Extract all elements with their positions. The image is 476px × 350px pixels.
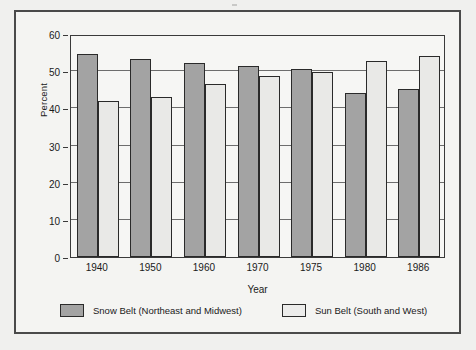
chart-legend: Snow Belt (Northeast and Midwest) Sun Be… bbox=[60, 304, 450, 317]
y-tick-label-50: 50 bbox=[49, 67, 60, 78]
x-axis: 1940195019601970197519801986 bbox=[70, 262, 445, 280]
x-tick-label-1975: 1975 bbox=[300, 262, 322, 273]
bar-sun-belt-1940 bbox=[98, 101, 119, 257]
figure-card: 0102030405060 Percent 194019501960197019… bbox=[14, 10, 461, 334]
y-tick-label-10: 10 bbox=[49, 215, 60, 226]
legend-entry-snow-belt: Snow Belt (Northeast and Midwest) bbox=[60, 304, 242, 317]
bars-layer bbox=[71, 36, 444, 257]
bar-sun-belt-1980 bbox=[366, 61, 387, 257]
y-tick-mark-40 bbox=[63, 109, 68, 110]
x-tick-label-1940: 1940 bbox=[86, 262, 108, 273]
sun-belt-swatch-icon bbox=[282, 304, 306, 317]
scan-artifact bbox=[232, 4, 237, 6]
y-tick-label-0: 0 bbox=[54, 253, 60, 264]
bar-snow-belt-1940 bbox=[77, 54, 98, 257]
bar-sun-belt-1986 bbox=[419, 56, 440, 257]
y-tick-mark-10 bbox=[63, 221, 68, 222]
y-tick-mark-60 bbox=[63, 35, 68, 36]
x-tick-label-1970: 1970 bbox=[246, 262, 268, 273]
bar-snow-belt-1950 bbox=[130, 59, 151, 257]
y-tick-label-60: 60 bbox=[49, 30, 60, 41]
bar-sun-belt-1950 bbox=[151, 97, 172, 257]
y-axis-title: Percent bbox=[38, 83, 49, 117]
legend-label-sun-belt: Sun Belt (South and West) bbox=[315, 305, 427, 316]
snow-belt-swatch-icon bbox=[60, 304, 84, 317]
x-tick-label-1980: 1980 bbox=[354, 262, 376, 273]
y-tick-mark-0 bbox=[63, 258, 68, 259]
x-axis-title: Year bbox=[70, 284, 445, 295]
x-tick-label-1950: 1950 bbox=[139, 262, 161, 273]
legend-label-snow-belt: Snow Belt (Northeast and Midwest) bbox=[93, 305, 242, 316]
y-tick-label-20: 20 bbox=[49, 178, 60, 189]
bar-snow-belt-1970 bbox=[238, 66, 259, 257]
bar-sun-belt-1960 bbox=[205, 84, 226, 257]
y-tick-mark-30 bbox=[63, 147, 68, 148]
bar-sun-belt-1975 bbox=[312, 72, 333, 257]
x-tick-label-1960: 1960 bbox=[193, 262, 215, 273]
legend-entry-sun-belt: Sun Belt (South and West) bbox=[282, 304, 427, 317]
y-tick-label-30: 30 bbox=[49, 141, 60, 152]
bar-snow-belt-1986 bbox=[398, 89, 419, 257]
bar-sun-belt-1970 bbox=[259, 76, 280, 257]
y-tick-mark-50 bbox=[63, 72, 68, 73]
bar-snow-belt-1960 bbox=[184, 63, 205, 257]
plot-area bbox=[70, 35, 445, 258]
x-tick-label-1986: 1986 bbox=[407, 262, 429, 273]
bar-snow-belt-1975 bbox=[291, 69, 312, 257]
bar-snow-belt-1980 bbox=[345, 93, 366, 257]
y-axis: 0102030405060 bbox=[16, 35, 68, 258]
y-tick-mark-20 bbox=[63, 184, 68, 185]
y-tick-label-40: 40 bbox=[49, 104, 60, 115]
